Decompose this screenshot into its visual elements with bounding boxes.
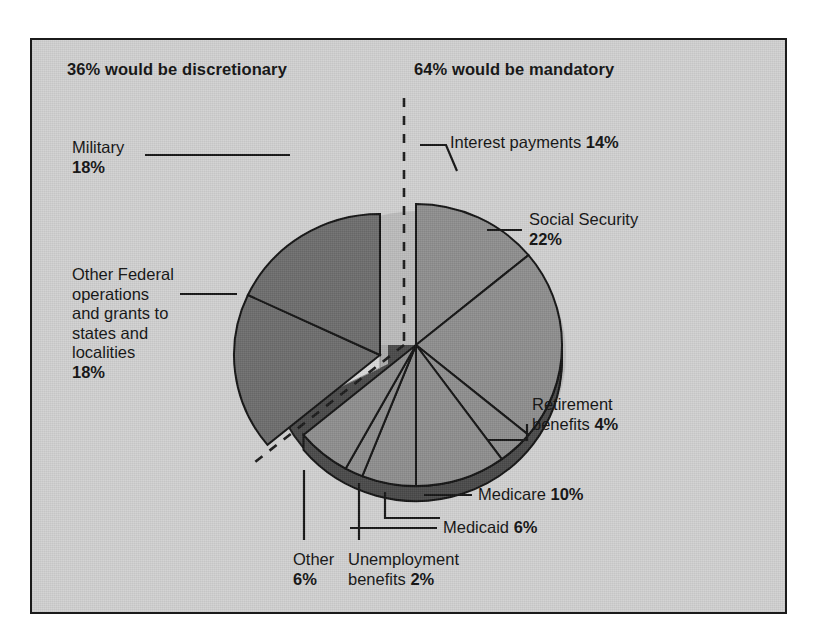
header-discretionary: 36% would be discretionary [67,60,287,79]
header-mandatory: 64% would be mandatory [414,60,614,79]
label-other-federal: Other Federaloperationsand grants tostat… [72,265,174,382]
chart-panel: 36% would be discretionary 64% would be … [30,38,787,614]
label-retirement-benefits: Retirementbenefits 4% [532,395,618,434]
label-medicaid: Medicaid 6% [443,518,537,538]
label-military: Military18% [72,138,124,177]
label-interest-payments: Interest payments 14% [450,133,619,153]
label-medicare: Medicare 10% [478,485,583,505]
label-other: Other6% [293,550,334,589]
label-social-security: Social Security22% [529,210,638,249]
label-unemployment-benefits: Unemploymentbenefits 2% [348,550,459,589]
